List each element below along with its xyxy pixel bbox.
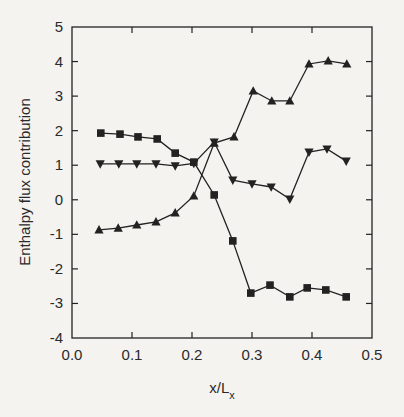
square-marker	[153, 135, 161, 143]
enthalpy-flux-chart: 0.00.10.20.30.40.5-4-3-2-1012345 x/Lx En…	[0, 0, 404, 417]
y-tick-label: 0	[55, 191, 63, 208]
square-marker	[210, 191, 218, 199]
square-marker	[342, 293, 350, 301]
x-tick-label: 0.3	[242, 346, 263, 363]
square-marker	[286, 293, 294, 301]
y-tick-label: -3	[50, 294, 63, 311]
triangle-up-marker	[249, 86, 258, 94]
square-marker	[97, 129, 105, 137]
y-tick-label: 4	[55, 53, 63, 70]
x-axis-label: x/Lx	[209, 379, 235, 401]
y-tick-label: 5	[55, 18, 63, 35]
y-tick-label: -1	[50, 225, 63, 242]
triangle-down-marker	[171, 162, 180, 170]
square-marker	[171, 149, 179, 157]
square-marker	[303, 284, 311, 292]
tick-labels: 0.00.10.20.30.40.5-4-3-2-1012345	[50, 18, 383, 363]
y-tick-label: -2	[50, 260, 63, 277]
y-tick-label: -4	[50, 329, 63, 346]
y-tick-label: 2	[55, 122, 63, 139]
x-tick-label: 0.2	[182, 346, 203, 363]
data-series	[94, 56, 351, 301]
triangle-down-marker	[285, 195, 294, 203]
y-tick-label: 3	[55, 87, 63, 104]
triangle-down-marker	[342, 157, 351, 165]
square-marker	[229, 237, 237, 245]
triangle-up-marker	[189, 191, 198, 199]
triangle-down-marker	[267, 183, 276, 191]
square-marker	[116, 130, 124, 138]
x-tick-label: 0.1	[122, 346, 143, 363]
y-axis-label: Enthalpy flux contribution	[16, 98, 33, 266]
x-tick-label: 0.4	[302, 346, 323, 363]
triangle-up-marker	[151, 217, 160, 225]
triangle-up-marker	[324, 56, 333, 64]
triangle-up-marker	[229, 132, 238, 140]
square-marker	[134, 133, 142, 141]
square-marker	[266, 281, 274, 289]
y-tick-label: 1	[55, 156, 63, 173]
square-marker	[322, 286, 330, 294]
series-up-triangles	[94, 56, 351, 233]
series-squares	[97, 129, 350, 300]
triangle-down-marker	[304, 148, 313, 156]
square-marker	[247, 289, 255, 297]
x-tick-label: 0.5	[362, 346, 383, 363]
x-tick-label: 0.0	[62, 346, 83, 363]
series-down-triangles	[96, 138, 351, 203]
